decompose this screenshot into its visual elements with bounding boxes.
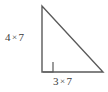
vertical-leg-factor-b: 7: [18, 31, 24, 43]
triangle-outline: [42, 6, 103, 72]
vertical-leg-label: 4×7: [5, 31, 24, 43]
horizontal-leg-label: 3×7: [53, 75, 72, 87]
horizontal-leg-factor-b: 7: [66, 75, 72, 87]
right-triangle-diagram: 4×7 3×7: [0, 0, 108, 92]
right-angle-marker-icon: [43, 62, 53, 72]
